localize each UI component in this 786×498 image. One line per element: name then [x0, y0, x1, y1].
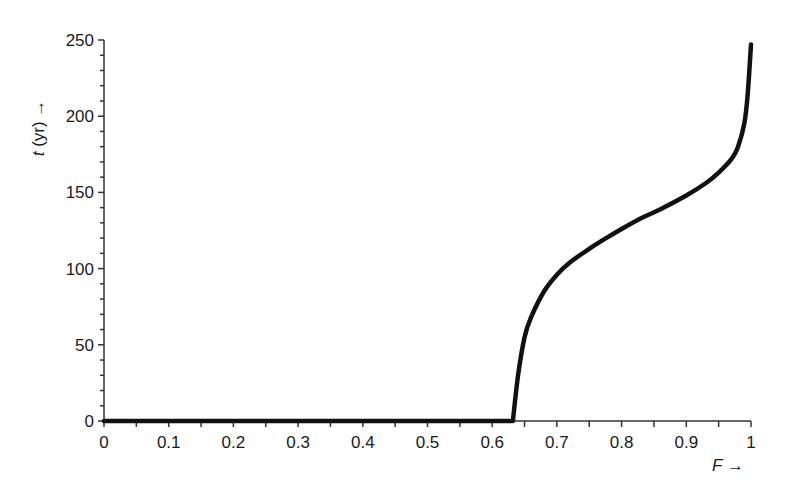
x-tick-label: 0.5: [416, 433, 440, 452]
y-tick-label: 150: [66, 183, 94, 202]
x-axis: 00.10.20.30.40.50.60.70.80.91: [99, 421, 755, 452]
x-tick-label: 0.9: [674, 433, 698, 452]
data-curve: [104, 45, 751, 421]
x-tick-label: 0.4: [351, 433, 375, 452]
x-tick-label: 0: [99, 433, 108, 452]
plot-area: [104, 45, 751, 421]
y-tick-label: 200: [66, 107, 94, 126]
y-axis: 050100150200250: [66, 31, 104, 431]
x-tick-label: 0.7: [545, 433, 569, 452]
x-tick-label: 0.3: [286, 433, 310, 452]
y-tick-label: 100: [66, 260, 94, 279]
svg-text:t (yr) →: t (yr) →: [29, 100, 48, 157]
x-tick-label: 0.6: [480, 433, 504, 452]
x-axis-label: F →: [712, 456, 744, 475]
x-tick-label: 0.1: [157, 433, 181, 452]
x-tick-label: 0.8: [610, 433, 634, 452]
x-tick-label: 1: [746, 433, 755, 452]
y-axis-label: t (yr) →: [29, 100, 48, 157]
chart: 050100150200250 00.10.20.30.40.50.60.70.…: [0, 0, 786, 498]
svg-text:F →: F →: [712, 456, 744, 475]
y-tick-label: 250: [66, 31, 94, 50]
y-tick-label: 50: [75, 336, 94, 355]
y-tick-label: 0: [85, 412, 94, 431]
x-tick-label: 0.2: [222, 433, 246, 452]
